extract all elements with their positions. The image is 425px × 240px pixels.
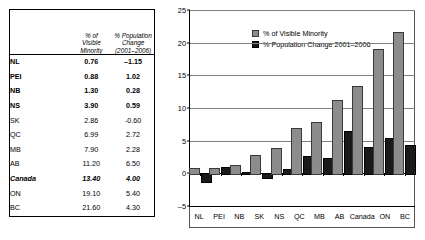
bar-group	[190, 10, 210, 206]
bar-visible-minority[interactable]	[250, 155, 261, 176]
y-axis-tick-label: 5	[182, 136, 186, 145]
cell-region-name: Canada	[10, 172, 70, 187]
table-row: AB11.206.50	[10, 157, 154, 172]
cell-population-change: –1.15	[112, 55, 154, 70]
header-line-1: % of	[70, 32, 112, 39]
x-axis-tick-label: NB	[229, 210, 249, 224]
cell-visible-minority: 0.76	[70, 55, 112, 70]
cell-population-change: 2.28	[112, 143, 154, 158]
cell-population-change: 1.02	[112, 70, 154, 85]
cell-region-name: ON	[10, 187, 70, 202]
cell-population-change: 2.72	[112, 128, 154, 143]
cell-population-change: 5.40	[112, 187, 154, 202]
x-axis-tick-label: Canada	[350, 210, 375, 224]
table-body: % of Visible Minority % Population Chang…	[10, 10, 154, 216]
bar-group	[210, 10, 230, 206]
data-table-panel: % of Visible Minority % Population Chang…	[9, 9, 155, 217]
table-row: NL0.76–1.15	[10, 55, 154, 70]
x-axis-tick-mark	[405, 173, 406, 176]
bar-chart-panel: % of Visible Minority% Population Change…	[163, 7, 417, 232]
cell-visible-minority: 13.40	[70, 172, 112, 187]
bar-group	[374, 10, 394, 206]
header-line-2: Change	[112, 39, 154, 46]
y-axis-tick-label: 20	[178, 38, 186, 47]
table-row: NS3.900.59	[10, 99, 154, 114]
cell-visible-minority: 19.10	[70, 187, 112, 202]
cell-population-change: -0.60	[112, 114, 154, 129]
x-axis-tick-mark	[241, 173, 242, 176]
bar-visible-minority[interactable]	[373, 49, 384, 176]
bar-visible-minority[interactable]	[311, 122, 322, 176]
cell-region-name: PEI	[10, 70, 70, 85]
table-row: ON19.105.40	[10, 187, 154, 202]
cell-region-name: AB	[10, 157, 70, 172]
cell-visible-minority: 7.90	[70, 143, 112, 158]
x-axis-tick-label: NS	[269, 210, 289, 224]
x-axis-tick-label: MB	[309, 210, 329, 224]
header-cell-visible-minority: % of Visible Minority	[70, 10, 112, 55]
table-row: NB1.300.28	[10, 84, 154, 99]
cell-visible-minority: 11.20	[70, 157, 112, 172]
y-axis-tick-label: 0	[182, 169, 186, 178]
table-row: MB7.902.28	[10, 143, 154, 158]
table-row: QC6.992.72	[10, 128, 154, 143]
x-axis-tick-mark	[262, 173, 263, 176]
cell-population-change: 0.59	[112, 99, 154, 114]
cell-region-name: MB	[10, 143, 70, 158]
y-axis-tick-label: –5	[178, 202, 186, 211]
header-cell-population-change: % Population Change (2001–2006)	[112, 10, 154, 55]
x-axis-tick-label: BC	[395, 210, 415, 224]
y-axis-tick-label: 25	[178, 6, 186, 15]
bar-visible-minority[interactable]	[189, 168, 200, 175]
table-row: SK2.86-0.60	[10, 114, 154, 129]
header-cell-name	[10, 10, 70, 55]
cell-region-name: BC	[10, 201, 70, 216]
cell-region-name: NB	[10, 84, 70, 99]
x-axis-tick-label: SK	[249, 210, 269, 224]
cell-visible-minority: 1.30	[70, 84, 112, 99]
bar-visible-minority[interactable]	[291, 128, 302, 176]
table-row: BC21.604.30	[10, 201, 154, 216]
bar-visible-minority[interactable]	[209, 168, 220, 176]
cell-region-name: NS	[10, 99, 70, 114]
cell-visible-minority: 0.88	[70, 70, 112, 85]
bar-group	[251, 10, 271, 206]
x-axis-tick-label: AB	[330, 210, 350, 224]
cell-population-change: 6.50	[112, 157, 154, 172]
x-axis-tick-mark	[200, 173, 201, 176]
cell-visible-minority: 3.90	[70, 99, 112, 114]
bar-visible-minority[interactable]	[332, 100, 343, 175]
bar-group	[395, 10, 415, 206]
x-axis-tick-mark	[221, 173, 222, 176]
bar-visible-minority[interactable]	[352, 86, 363, 176]
cell-region-name: SK	[10, 114, 70, 129]
bar-visible-minority[interactable]	[230, 165, 241, 175]
cell-visible-minority: 6.99	[70, 128, 112, 143]
x-axis-tick-label: PEI	[209, 210, 229, 224]
bar-group	[333, 10, 353, 206]
bar-group	[272, 10, 292, 206]
cell-population-change: 4.00	[112, 172, 154, 187]
x-axis-tick-mark	[364, 173, 365, 176]
bar-group	[354, 10, 374, 206]
header-line-3: Minority	[70, 47, 112, 54]
bar-population-change[interactable]	[405, 145, 416, 175]
x-axis-tick-label: NL	[189, 210, 209, 224]
x-axis-tick-mark	[302, 173, 303, 176]
cell-visible-minority: 2.86	[70, 114, 112, 129]
bar-group	[313, 10, 333, 206]
chart-plot-area: % of Visible Minority% Population Change…	[189, 10, 415, 207]
cell-population-change: 0.28	[112, 84, 154, 99]
bar-visible-minority[interactable]	[271, 148, 282, 175]
x-axis-tick-mark	[384, 173, 385, 176]
cell-region-name: NL	[10, 55, 70, 70]
table-header-row: % of Visible Minority % Population Chang…	[10, 10, 154, 55]
x-axis-tick-label: ON	[375, 210, 395, 224]
bar-visible-minority[interactable]	[393, 32, 404, 175]
y-axis-tick-label: 10	[178, 104, 186, 113]
bar-groups	[190, 10, 415, 206]
table-row: PEI0.881.02	[10, 70, 154, 85]
y-axis-tick-label: 15	[178, 71, 186, 80]
x-axis-labels: NLPEINBSKNSQCMBABCanadaONBC	[189, 210, 415, 224]
cell-region-name: QC	[10, 128, 70, 143]
